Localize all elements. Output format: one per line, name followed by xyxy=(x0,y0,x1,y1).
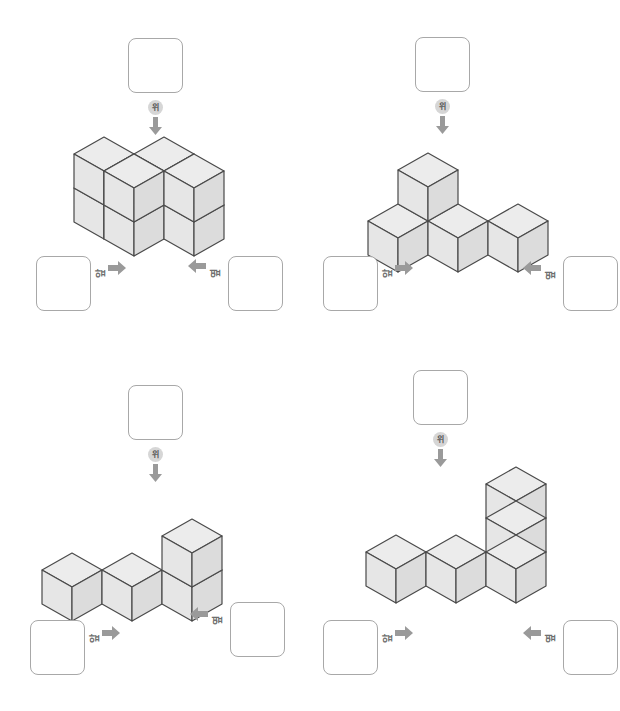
direction-label-front-4: 앞 xyxy=(383,634,393,643)
arrow-down-icon-2 xyxy=(435,116,450,134)
arrow-right-icon-4 xyxy=(395,626,413,640)
direction-label-side-3: 옆 xyxy=(213,616,223,625)
answer-box-top-4[interactable] xyxy=(413,370,468,425)
direction-label-front-2: 앞 xyxy=(383,269,393,278)
answer-box-side-1[interactable] xyxy=(228,256,283,311)
arrow-right-icon-3 xyxy=(102,626,120,640)
direction-label-side-4: 옆 xyxy=(546,634,556,643)
direction-label-side-1: 옆 xyxy=(211,269,221,278)
answer-box-side-4[interactable] xyxy=(563,620,618,675)
arrow-right-icon-2 xyxy=(395,261,413,275)
answer-box-top-2[interactable] xyxy=(415,37,470,92)
answer-box-front-3[interactable] xyxy=(30,620,85,675)
direction-label-top-2: 위 xyxy=(435,99,450,114)
arrow-left-icon-2 xyxy=(523,261,541,275)
answer-box-side-3[interactable] xyxy=(230,602,285,657)
direction-label-front-3: 앞 xyxy=(90,634,100,643)
answer-box-side-2[interactable] xyxy=(563,256,618,311)
arrow-left-icon-4 xyxy=(523,626,541,640)
answer-box-front-1[interactable] xyxy=(36,256,91,311)
arrow-left-icon-1 xyxy=(188,259,206,273)
direction-label-top-3: 위 xyxy=(148,447,163,462)
arrow-down-icon-3 xyxy=(148,464,163,482)
arrow-left-icon-3 xyxy=(190,607,208,621)
figure-panel-2: 위 xyxy=(310,0,620,355)
direction-label-side-2: 옆 xyxy=(546,271,556,280)
direction-label-front-1: 앞 xyxy=(96,269,106,278)
direction-label-top-4: 위 xyxy=(433,432,448,447)
answer-box-top-1[interactable] xyxy=(128,38,183,93)
figure-panel-4: 위 xyxy=(310,355,620,710)
cube-structure-4 xyxy=(366,467,571,677)
figure-panel-3: 위 xyxy=(0,355,310,710)
figure-panel-1: 위 xyxy=(0,0,310,355)
worksheet-grid: 위 xyxy=(0,0,620,711)
answer-box-top-3[interactable] xyxy=(128,385,183,440)
arrow-right-icon-1 xyxy=(108,261,126,275)
arrow-down-icon-1 xyxy=(148,117,163,135)
direction-label-top-1: 위 xyxy=(148,100,163,115)
answer-box-front-2[interactable] xyxy=(323,256,378,311)
answer-box-front-4[interactable] xyxy=(323,620,378,675)
arrow-down-icon-4 xyxy=(433,449,448,467)
